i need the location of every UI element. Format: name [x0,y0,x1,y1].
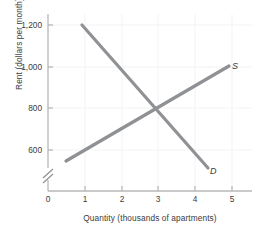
supply-curve [66,66,229,161]
x-axis-label-text: Quantity (thousands of apartments) [83,213,216,223]
y-tick-label-1000: 1,000 [2,62,42,72]
chart-container: Rent (dollars per month) Quantity (thous… [0,0,265,230]
x-tick-label-1: 1 [83,194,88,204]
demand-curve [82,25,208,168]
y-axis-ticks [48,25,53,150]
x-axis-label: Quantity (thousands of apartments) [40,207,260,225]
y-axis-label-text: Rent (dollars per month) [14,0,24,90]
y-tick-label-600: 600 [6,145,42,155]
y-axis-label: Rent (dollars per month) [11,0,27,119]
y-tick-label-1200: 1,200 [2,20,42,30]
x-tick-label-3: 3 [156,194,161,204]
x-tick-label-4: 4 [193,194,198,204]
x-tick-label-0: 0 [46,194,51,204]
demand-curve-label: D [210,166,217,176]
x-axis-ticks [85,186,232,191]
y-tick-label-800: 800 [6,103,42,113]
supply-curve-label: S [232,61,238,71]
chart-plot-area [0,0,265,230]
x-tick-label-2: 2 [120,194,125,204]
x-tick-label-5: 5 [230,194,235,204]
